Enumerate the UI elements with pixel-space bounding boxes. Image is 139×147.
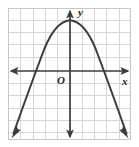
graph-canvas: y x O [0, 0, 139, 147]
origin-label: O [57, 74, 65, 86]
coordinate-plane-figure: y x O [0, 0, 139, 147]
x-axis-label: x [121, 75, 128, 87]
y-axis-label: y [76, 6, 83, 18]
